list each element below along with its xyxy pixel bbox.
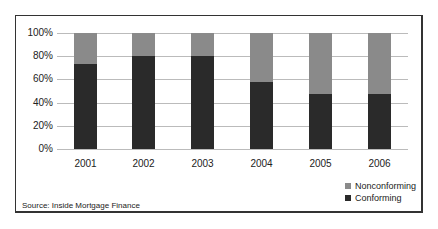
y-tick-label: 20% [15,120,53,131]
y-tick-label: 60% [15,73,53,84]
gridline [57,79,408,80]
source-note: Source: Inside Mortgage Finance [22,201,140,210]
y-tick-label: 40% [15,97,53,108]
bar-segment-conforming [191,56,214,149]
bar-segment-nonconforming [309,33,332,94]
gridline [57,126,408,127]
y-tick-label: 80% [15,50,53,61]
x-tick-label: 2001 [66,158,106,169]
bar-2002 [132,33,155,149]
gridline [57,103,408,104]
gridline [57,56,408,57]
bar-segment-conforming [74,64,97,149]
gridline [57,33,408,34]
chart-root: Nonconforming Conforming Source: Inside … [0,0,438,229]
y-tick-label: 0% [15,143,53,154]
x-tick-label: 2004 [242,158,282,169]
bar-segment-nonconforming [250,33,273,82]
bar-segment-nonconforming [132,33,155,56]
bar-segment-conforming [309,94,332,149]
bar-2005 [309,33,332,149]
bar-segment-conforming [132,56,155,149]
bar-2003 [191,33,214,149]
bar-segment-nonconforming [74,33,97,64]
x-tick-label: 2005 [301,158,341,169]
bar-2001 [74,33,97,149]
legend-label: Nonconforming [355,181,416,191]
bar-segment-conforming [368,94,391,149]
gridline [57,149,408,150]
y-tick-label: 100% [15,27,53,38]
x-tick-label: 2002 [124,158,164,169]
legend-label: Conforming [355,193,402,203]
bar-segment-nonconforming [191,33,214,56]
legend-swatch-nonconforming [345,183,351,189]
legend-conforming: Conforming [345,193,402,203]
legend-nonconforming: Nonconforming [345,181,416,191]
x-tick-label: 2003 [183,158,223,169]
bar-segment-conforming [250,82,273,149]
legend-swatch-conforming [345,195,351,201]
bar-segment-nonconforming [368,33,391,94]
bar-2004 [250,33,273,149]
bar-2006 [368,33,391,149]
x-tick-label: 2006 [360,158,400,169]
